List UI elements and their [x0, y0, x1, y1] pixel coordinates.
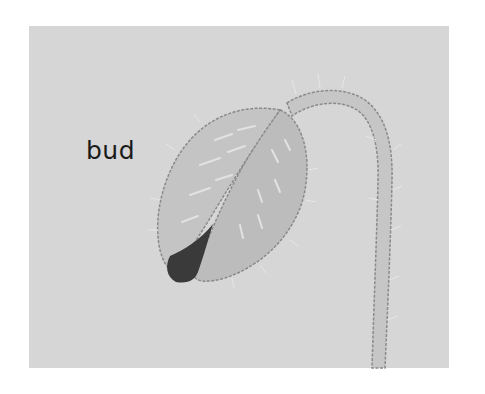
- poppy-bud-drawing: [0, 0, 485, 394]
- stem: [287, 74, 402, 368]
- bud: [148, 108, 318, 288]
- bud-label: bud: [86, 136, 135, 165]
